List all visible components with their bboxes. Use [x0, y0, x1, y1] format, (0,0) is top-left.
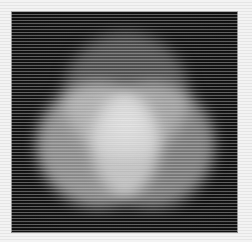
triple-overlap-hotspot — [100, 100, 152, 152]
light-circle-stack — [12, 12, 237, 232]
figure-title: Additive colour mixing of three overlapp… — [0, 0, 1, 1]
figure-canvas: Additive colour mixing of three overlapp… — [0, 0, 252, 242]
dark-projection-surface — [12, 12, 237, 232]
